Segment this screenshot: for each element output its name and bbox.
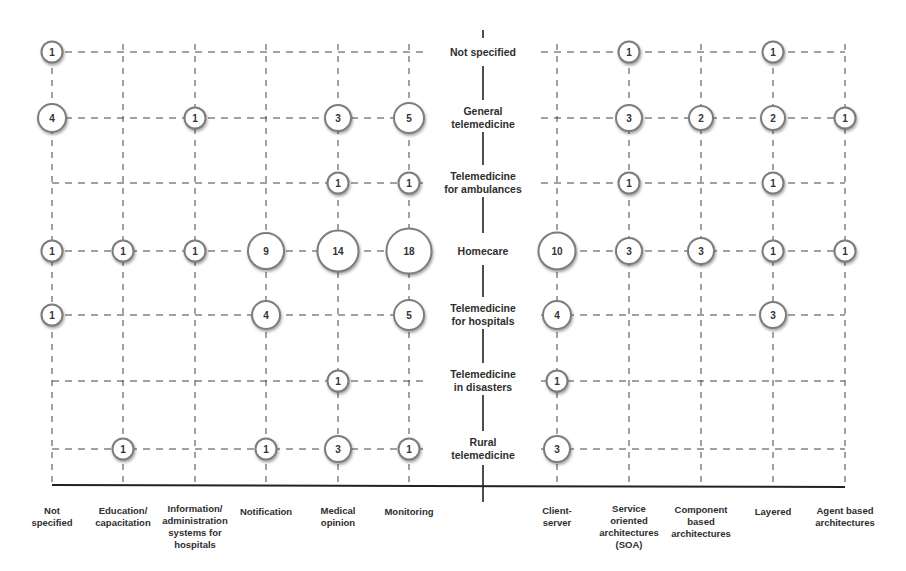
row-label: Telemedicine for hospitals [428, 302, 538, 328]
column-label: Agent based architectures [800, 505, 890, 529]
row-label: Telemedicine for ambulances [428, 170, 538, 196]
row-label: Not specified [428, 46, 538, 59]
data-bubble: 1 [41, 240, 64, 263]
data-bubble: 3 [687, 237, 715, 265]
data-bubble: 18 [386, 228, 433, 275]
row-label: General telemedicine [428, 105, 538, 131]
data-bubble: 5 [393, 299, 425, 331]
row-label: Homecare [428, 245, 538, 258]
data-bubble: 3 [759, 301, 787, 329]
data-bubble: 3 [615, 237, 643, 265]
data-bubble: 1 [618, 41, 641, 64]
data-bubble: 3 [324, 435, 352, 463]
data-bubble: 1 [112, 438, 135, 461]
data-bubble: 4 [37, 103, 67, 133]
data-bubble: 5 [393, 102, 425, 134]
data-bubble: 1 [618, 172, 641, 195]
row-label: Rural telemedicine [428, 436, 538, 462]
data-bubble: 1 [327, 172, 350, 195]
column-label: Monitoring [364, 506, 454, 518]
data-bubble: 1 [41, 41, 64, 64]
row-label: Telemedicine in disasters [428, 368, 538, 394]
data-bubble: 2 [760, 105, 786, 131]
data-bubble: 1 [184, 240, 207, 263]
data-bubble: 1 [834, 240, 857, 263]
data-bubble: 1 [255, 438, 278, 461]
data-bubble: 1 [762, 41, 785, 64]
data-bubble: 1 [184, 107, 207, 130]
data-bubble: 1 [762, 240, 785, 263]
data-bubble: 10 [538, 232, 577, 271]
bubble-chart: Not specifiedGeneral telemedicineTelemed… [0, 0, 906, 571]
data-bubble: 1 [834, 107, 857, 130]
data-bubble: 1 [398, 172, 421, 195]
data-bubble: 1 [112, 240, 135, 263]
data-bubble: 3 [615, 104, 643, 132]
data-bubble: 3 [324, 104, 352, 132]
data-bubble: 1 [762, 172, 785, 195]
data-bubble: 1 [546, 370, 569, 393]
data-bubble: 4 [542, 300, 572, 330]
data-bubble: 2 [688, 105, 714, 131]
data-bubble: 3 [543, 435, 571, 463]
data-bubble: 14 [317, 230, 360, 273]
data-bubble: 9 [247, 232, 285, 270]
chart-grid [0, 0, 906, 571]
data-bubble: 1 [41, 304, 64, 327]
data-bubble: 1 [398, 438, 421, 461]
data-bubble: 4 [251, 300, 281, 330]
data-bubble: 1 [327, 370, 350, 393]
